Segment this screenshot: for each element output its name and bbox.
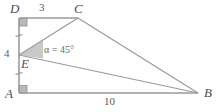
segment-CB — [78, 18, 198, 93]
vertex-label-A: A — [5, 87, 13, 100]
right-angle-marker-A — [20, 86, 28, 94]
vertex-label-D: D — [10, 2, 19, 15]
vertex-label-C: C — [74, 2, 83, 15]
segment-EB — [19, 55, 198, 93]
length-label-DC: 3 — [39, 2, 45, 13]
right-angle-marker-D — [20, 19, 28, 27]
geometry-figure: D C E A B 3 4 10 α = 45° — [0, 0, 222, 112]
vertex-label-E: E — [21, 57, 29, 70]
vertex-label-B: B — [204, 86, 212, 99]
length-label-DE: 4 — [4, 48, 10, 59]
angle-label-alpha: α = 45° — [44, 45, 74, 55]
length-label-AB: 10 — [104, 96, 115, 107]
